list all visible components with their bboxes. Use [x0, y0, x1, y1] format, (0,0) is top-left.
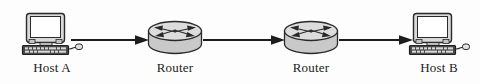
node-router-2[interactable]: Router [283, 0, 339, 84]
link-router-2-host-b [339, 33, 413, 47]
node-label-router-1: Router [157, 60, 194, 75]
router-cylinder-icon [147, 20, 203, 56]
node-router-1[interactable]: Router [147, 0, 203, 84]
link-router-1-router-2 [203, 33, 285, 47]
node-label-host-b: Host B [420, 60, 458, 75]
node-label-router-2: Router [293, 60, 330, 75]
router-cylinder-icon [283, 20, 339, 56]
node-host-b[interactable]: Host B [405, 0, 473, 84]
network-diagram: Host A [0, 0, 480, 84]
node-label-host-a: Host A [33, 60, 71, 75]
desktop-computer-icon [405, 12, 473, 58]
link-host-a-router-1 [71, 33, 149, 47]
